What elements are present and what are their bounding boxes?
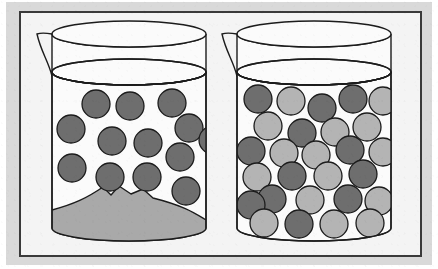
left-beaker-particle-dark <box>158 89 186 117</box>
left-beaker-particle-dark <box>58 154 86 182</box>
right-beaker-particle-dark <box>237 137 265 165</box>
right-beaker-particle-light <box>314 162 342 190</box>
beaker-diagram <box>0 0 438 269</box>
right-beaker-particle-dark <box>285 210 313 238</box>
left-beaker-particle-dark <box>133 163 161 191</box>
right-beaker-particle-light <box>250 209 278 237</box>
left-beaker-particle-dark <box>57 115 85 143</box>
left-beaker-particle-dark <box>172 177 200 205</box>
right-beaker-particle-dark <box>278 162 306 190</box>
right-beaker-particle-dark <box>349 160 377 188</box>
right-beaker-particle-light <box>277 87 305 115</box>
left-beaker-particle-dark <box>98 127 126 155</box>
left-beaker-particle-dark <box>96 163 124 191</box>
right-beaker-particle-light <box>356 209 384 237</box>
right-beaker-particle-light <box>353 113 381 141</box>
left-beaker-particle-dark <box>166 143 194 171</box>
right-beaker-top-opening <box>237 21 391 47</box>
figure-stage <box>0 0 438 269</box>
left-beaker <box>37 21 227 245</box>
right-beaker-particle-dark <box>244 85 272 113</box>
left-beaker-particle-dark <box>134 129 162 157</box>
left-beaker-particle-dark <box>82 90 110 118</box>
left-beaker-top-opening <box>52 21 206 47</box>
left-beaker-particle-dark <box>116 92 144 120</box>
right-beaker-particle-light <box>320 210 348 238</box>
right-beaker-particle-dark <box>334 185 362 213</box>
right-beaker <box>222 21 397 241</box>
right-beaker-particle-dark <box>339 85 367 113</box>
right-beaker-particle-light <box>254 112 282 140</box>
